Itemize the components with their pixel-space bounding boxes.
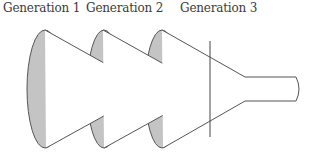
generation-3-funnel [162,30,299,148]
generations-funnel-diagram [0,0,312,158]
